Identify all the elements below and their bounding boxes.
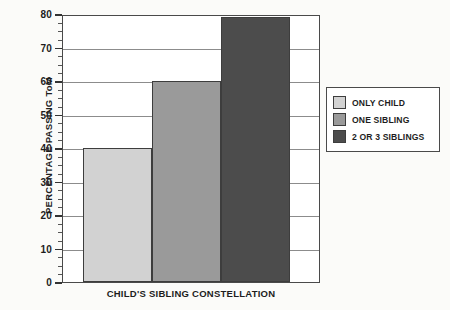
y-axis-tick [55,215,62,216]
y-axis-tick [55,14,62,15]
y-axis-tick [55,148,62,149]
legend-label: ONE SIBLING [352,115,410,125]
legend-swatch [333,113,346,126]
legend-label: ONLY CHILD [352,98,405,108]
plot-area [62,15,320,283]
bar [83,148,152,282]
y-axis-tick-label: 20 [26,210,52,221]
bar-chart-figure: PERCENTAGE PASSING ToM 01020304050607080… [0,0,450,310]
legend-swatch [333,96,346,109]
y-axis-tick-label: 70 [26,43,52,54]
y-axis-tick [55,282,62,283]
bar [221,17,290,282]
y-axis-tick-label: 60 [26,76,52,87]
y-axis-tick [55,115,62,116]
y-axis-tick [55,182,62,183]
legend-label: 2 OR 3 SIBLINGS [352,132,424,142]
y-axis-tick-label: 50 [26,110,52,121]
y-axis-tick-label: 80 [26,9,52,20]
y-axis-tick-label: 0 [26,277,52,288]
legend-item: ONLY CHILD [333,94,434,111]
legend-swatch [333,130,346,143]
legend-box: ONLY CHILDONE SIBLING2 OR 3 SIBLINGS [326,87,440,152]
y-axis-tick-label: 10 [26,244,52,255]
y-axis-tick [55,249,62,250]
x-axis-title: CHILD'S SIBLING CONSTELLATION [62,288,320,299]
legend-item: 2 OR 3 SIBLINGS [333,128,434,145]
y-axis-tick-label: 40 [26,143,52,154]
y-axis-tick [55,81,62,82]
legend-item: ONE SIBLING [333,111,434,128]
y-axis-tick-label: 30 [26,177,52,188]
y-axis-tick [55,48,62,49]
bar [152,81,221,282]
